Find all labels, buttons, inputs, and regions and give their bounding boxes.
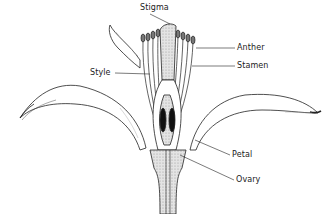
label-anther: Anther (237, 44, 265, 52)
flower-section-diagram (0, 0, 336, 214)
left-petal (20, 85, 146, 150)
pistil (150, 24, 186, 214)
label-ovary: Ovary (236, 176, 260, 184)
upper-left-petal (109, 25, 140, 68)
label-style: Style (90, 69, 111, 77)
right-petal (190, 94, 321, 150)
label-petal: Petal (232, 151, 252, 159)
label-stigma: Stigma (140, 4, 169, 12)
label-stamen: Stamen (237, 62, 269, 70)
